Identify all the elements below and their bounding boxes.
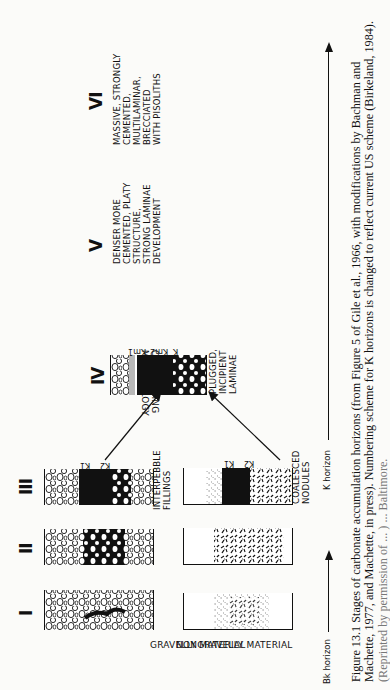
- horizon-label-km1: Km1: [128, 347, 146, 356]
- stage-numeral-v: V: [86, 240, 106, 252]
- nongravelly-column-stage-i: [183, 593, 293, 630]
- note-stage-v: DENSER MORE CEMENTED, PLATY STRUCTURE, S…: [112, 183, 162, 264]
- nongravelly-column-stage-iii: [183, 468, 293, 505]
- stage-numeral-ii: II: [16, 543, 36, 554]
- figure-caption-line-2: Machette, 1977, and Machette, in press).…: [363, 21, 376, 682]
- gravel-texture-icon: [45, 529, 153, 565]
- stage-numeral-iv: IV: [88, 368, 108, 385]
- figure-caption-line-3: (Reprinted by permission of ... ) ... Ba…: [377, 459, 390, 682]
- nodule-texture-icon: [184, 593, 292, 629]
- gravelly-column-stage-ii: [44, 529, 154, 565]
- axis-label-bk-horizon: Bk horizon: [322, 639, 332, 684]
- nongravelly-column-stage-ii: [183, 528, 293, 565]
- stage-numeral-vi: VI: [86, 93, 106, 110]
- nodule-texture-icon: [184, 528, 292, 564]
- gravel-texture-icon: [45, 469, 153, 505]
- stage-numeral-i: I: [16, 611, 36, 616]
- axis-label-k-horizon: K horizon: [322, 450, 332, 490]
- arrow-right-icon: [323, 40, 335, 52]
- plugged-horizon-texture-icon: [111, 355, 206, 395]
- axis-line-k: [328, 50, 329, 440]
- gravelly-column-stage-i: [44, 590, 154, 630]
- stage-numeral-iii: III: [16, 479, 36, 495]
- gravelly-column-stage-iii: [44, 469, 154, 505]
- nodule-texture-icon: [184, 468, 292, 504]
- column-stage-iv: [110, 355, 207, 395]
- axis-line-bk: [328, 560, 329, 632]
- horizon-label-k: K: [173, 347, 178, 356]
- horizon-label-km2: Km2: [150, 347, 168, 356]
- arrow-right-icon: [323, 548, 335, 560]
- horizon-label-k1: K1: [80, 461, 90, 470]
- note-stage-vi: MASSIVE, STRONGLY CEMENTED, MULTILAMINAR…: [112, 54, 162, 145]
- gravel-texture-icon: [45, 590, 153, 630]
- note-plugged-incipient-laminae: PLUGGED, INCIPIENT LAMINAE: [208, 349, 238, 394]
- row-label-nongravelly: NONGRAVELLY MATERIAL: [176, 636, 326, 650]
